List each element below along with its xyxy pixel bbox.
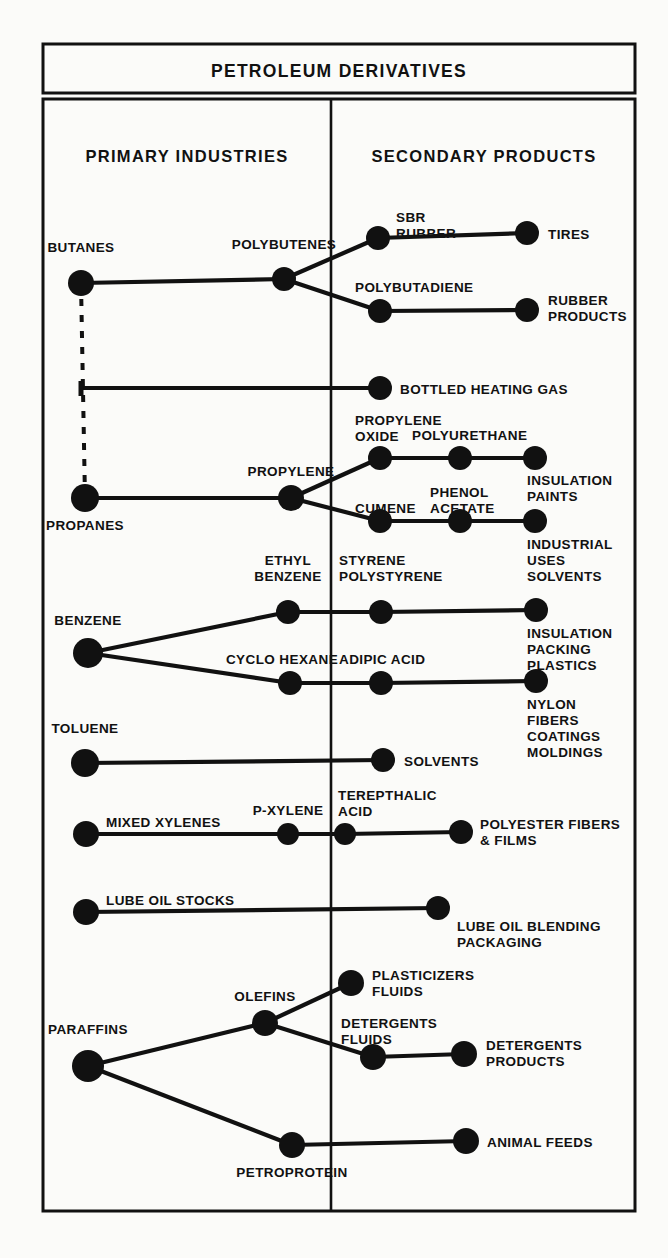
node-adipic-acid[interactable]	[369, 671, 393, 695]
node-label-phenol-acetate: PHENOLACETATE	[430, 485, 495, 516]
node-label-paraffins: PARAFFINS	[48, 1022, 128, 1037]
node-label-cumene: CUMENE	[355, 501, 416, 516]
node-animal-feeds[interactable]	[453, 1128, 479, 1154]
node-label-cyclo-hexane: CYCLO HEXANE	[226, 652, 338, 667]
node-insul-paints[interactable]	[523, 446, 547, 470]
node-paraffins[interactable]	[72, 1050, 104, 1082]
node-p-xylene[interactable]	[277, 823, 299, 845]
node-rubber-products[interactable]	[515, 298, 539, 322]
column-heading-primary: PRIMARY INDUSTRIES	[85, 147, 288, 165]
node-olefins[interactable]	[252, 1010, 278, 1036]
column-heading-secondary: SECONDARY PRODUCTS	[371, 147, 596, 165]
node-polybutadiene[interactable]	[368, 299, 392, 323]
node-label-lube-oil-stocks: LUBE OIL STOCKS	[106, 893, 235, 908]
edge-toluene-to-solvents	[85, 760, 383, 763]
node-toluene[interactable]	[71, 749, 99, 777]
petroleum-derivatives-diagram: PETROLEUM DERIVATIVES PRIMARY INDUSTRIES…	[0, 0, 668, 1258]
node-tires[interactable]	[515, 221, 539, 245]
edge-adipic-acid-to-nylon	[381, 681, 536, 683]
node-industrial-uses[interactable]	[523, 509, 547, 533]
node-polyurethane[interactable]	[448, 446, 472, 470]
node-cyclo-hexane[interactable]	[278, 671, 302, 695]
node-label-propylene: PROPYLENE	[248, 464, 335, 479]
node-label-polybutenes: POLYBUTENES	[232, 237, 336, 252]
edge-terepthalic-to-polyester	[345, 832, 461, 834]
edge-detergents-fl-to-detergents-pr	[373, 1054, 464, 1057]
node-ethyl-benzene[interactable]	[276, 600, 300, 624]
node-label-p-xylene: P-XYLENE	[253, 803, 324, 818]
node-label-polybutadiene: POLYBUTADIENE	[355, 280, 473, 295]
node-polyester[interactable]	[449, 820, 473, 844]
node-label-petroprotein: PETROPROTEIN	[236, 1165, 347, 1180]
node-label-adipic-acid: ADIPIC ACID	[339, 652, 425, 667]
page-title: PETROLEUM DERIVATIVES	[211, 61, 467, 81]
node-detergents-fl[interactable]	[360, 1044, 386, 1070]
node-bottled-gas[interactable]	[368, 376, 392, 400]
node-insul-packing[interactable]	[524, 598, 548, 622]
node-label-propanes: PROPANES	[46, 518, 124, 533]
node-solvents[interactable]	[371, 748, 395, 772]
node-mixed-xylenes[interactable]	[73, 821, 99, 847]
diagram-page: PETROLEUM DERIVATIVES PRIMARY INDUSTRIES…	[0, 0, 668, 1258]
node-label-benzene: BENZENE	[54, 613, 121, 628]
node-lube-blending[interactable]	[426, 896, 450, 920]
node-butanes[interactable]	[68, 270, 94, 296]
node-label-bottled-gas: BOTTLED HEATING GAS	[400, 382, 568, 397]
node-label-polyurethane: POLYURETHANE	[412, 428, 527, 443]
edge-polybutadiene-to-rubber-products	[380, 310, 527, 311]
node-label-tires: TIRES	[548, 227, 590, 242]
node-detergents-pr[interactable]	[451, 1041, 477, 1067]
edge-styrene-to-insul-packing	[381, 610, 536, 612]
node-label-olefins: OLEFINS	[234, 989, 295, 1004]
node-label-solvents: SOLVENTS	[404, 754, 479, 769]
node-propanes[interactable]	[71, 484, 99, 512]
node-label-toluene: TOLUENE	[51, 721, 118, 736]
node-polybutenes[interactable]	[272, 267, 296, 291]
node-sbr-rubber[interactable]	[366, 226, 390, 250]
node-propylene-oxide[interactable]	[368, 446, 392, 470]
node-label-mixed-xylenes: MIXED XYLENES	[106, 815, 221, 830]
node-label-animal-feeds: ANIMAL FEEDS	[487, 1135, 593, 1150]
node-terepthalic[interactable]	[334, 823, 356, 845]
node-petroprotein[interactable]	[279, 1132, 305, 1158]
node-benzene[interactable]	[73, 638, 103, 668]
node-lube-oil-stocks[interactable]	[73, 899, 99, 925]
node-propylene[interactable]	[278, 485, 304, 511]
node-label-butanes: BUTANES	[47, 240, 114, 255]
node-plasticizers[interactable]	[338, 970, 364, 996]
node-styrene[interactable]	[369, 600, 393, 624]
